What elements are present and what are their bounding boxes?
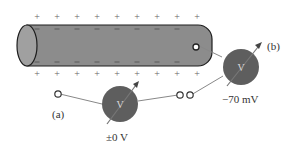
axon [17, 25, 212, 66]
plus-sign: + [194, 11, 200, 22]
electrode-a-left [55, 91, 61, 97]
axon-cut-end [17, 25, 37, 66]
plus-sign: + [154, 68, 160, 79]
plus-sign: + [174, 11, 180, 22]
voltmeter-b: V [223, 42, 262, 86]
plus-sign: + [114, 11, 120, 22]
panel-a-label: (a) [52, 108, 65, 121]
plus-sign: + [94, 11, 100, 22]
plus-sign: + [114, 68, 120, 79]
panel-b-label: (b) [267, 40, 280, 53]
positive-charges-outside-bottom: +++++++++ [34, 68, 200, 79]
plus-sign: + [174, 68, 180, 79]
arrow-icon [255, 42, 262, 49]
plus-sign: + [194, 68, 200, 79]
positive-charges-outside-top: +++++++++ [34, 11, 200, 22]
voltmeter-b-reading: −70 mV [222, 93, 259, 105]
plus-sign: + [54, 11, 60, 22]
axon-body [27, 25, 212, 66]
electrode-b-outside [187, 92, 193, 98]
wire-a-right [138, 95, 178, 101]
membrane-potential-diagram: +++++++++ +++++++++ V V (a) (b) ±0 V −7 [0, 0, 296, 149]
plus-sign: + [34, 68, 40, 79]
plus-sign: + [54, 68, 60, 79]
electrode-b-inside [193, 44, 199, 50]
plus-sign: + [34, 11, 40, 22]
plus-sign: + [134, 11, 140, 22]
plus-sign: + [94, 68, 100, 79]
voltmeter-a-symbol: V [116, 99, 124, 110]
plus-sign: + [154, 11, 160, 22]
electrode-a-right [177, 92, 183, 98]
wire-a-left [60, 94, 102, 104]
voltmeter-a-reading: ±0 V [106, 131, 128, 143]
plus-sign: + [74, 11, 80, 22]
voltmeter-b-symbol: V [237, 62, 245, 73]
plus-sign: + [134, 68, 140, 79]
voltmeter-a: V [102, 81, 139, 124]
plus-sign: + [74, 68, 80, 79]
